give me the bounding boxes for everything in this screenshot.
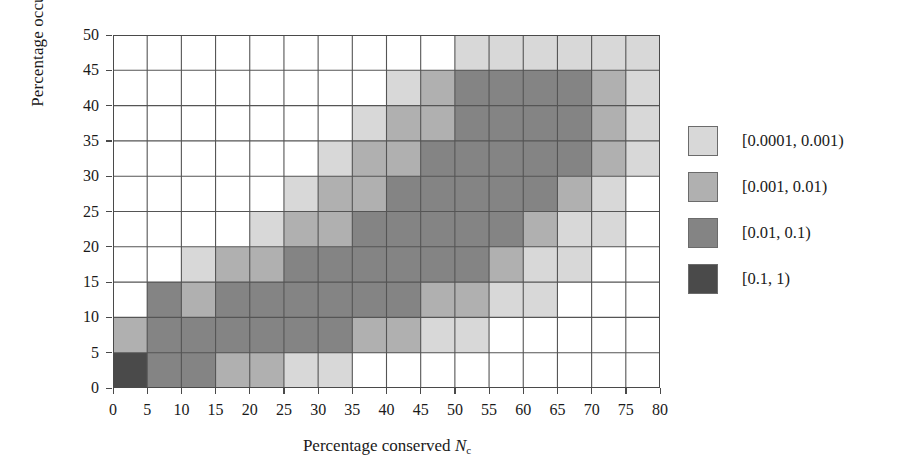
x-axis-tick-label: 80 [640, 402, 680, 418]
heatmap-cell [147, 247, 181, 282]
heatmap-cell [489, 176, 523, 211]
heatmap-cell [284, 70, 318, 105]
heatmap-cell [557, 317, 591, 352]
heatmap-cell [387, 317, 421, 352]
legend-swatch [688, 172, 718, 202]
legend-swatch [688, 264, 718, 294]
heatmap-cell [626, 176, 660, 211]
y-axis-tick-label: 45 [61, 62, 99, 78]
heatmap-cell [147, 141, 181, 176]
heatmap-grid [113, 35, 660, 388]
heatmap-cell [113, 176, 147, 211]
heatmap-cell [113, 70, 147, 105]
heatmap-cell [557, 35, 591, 70]
heatmap-cell [250, 247, 284, 282]
legend-swatch [688, 218, 718, 248]
heatmap-cell [113, 353, 147, 388]
heatmap-cell [181, 70, 215, 105]
heatmap-cell [455, 211, 489, 246]
heatmap-cell [557, 282, 591, 317]
heatmap-cell [626, 141, 660, 176]
heatmap-cell [626, 282, 660, 317]
heatmap-cell [489, 247, 523, 282]
heatmap-cell [489, 211, 523, 246]
heatmap-cell [352, 35, 386, 70]
heatmap-cell [284, 353, 318, 388]
heatmap-cell [592, 141, 626, 176]
y-axis-tick-mark [106, 317, 112, 318]
heatmap-cell [113, 106, 147, 141]
heatmap-cell [387, 353, 421, 388]
x-axis-tick-mark [113, 388, 114, 394]
heatmap-cell [216, 317, 250, 352]
heatmap-cell [147, 211, 181, 246]
heatmap-cell [421, 106, 455, 141]
heatmap-cell [318, 176, 352, 211]
heatmap-cell [592, 317, 626, 352]
heatmap-cell [421, 317, 455, 352]
heatmap-cell [216, 70, 250, 105]
heatmap-cell [113, 247, 147, 282]
heatmap-cell [284, 35, 318, 70]
heatmap-cell [318, 247, 352, 282]
x-axis-tick-mark [625, 388, 626, 394]
heatmap-cell [216, 35, 250, 70]
heatmap-cell [318, 70, 352, 105]
heatmap-cell [523, 247, 557, 282]
heatmap-cell [113, 211, 147, 246]
heatmap-cell [523, 106, 557, 141]
heatmap-cell [113, 35, 147, 70]
heatmap-cell [284, 141, 318, 176]
heatmap-cell [181, 353, 215, 388]
legend-item: [0.01, 0.1) [688, 210, 913, 256]
heatmap-cell [626, 211, 660, 246]
heatmap-cell [352, 317, 386, 352]
heatmap-cell [592, 106, 626, 141]
heatmap-cell [284, 247, 318, 282]
heatmap-cell [113, 141, 147, 176]
heatmap-cell [626, 247, 660, 282]
heatmap-cell [284, 176, 318, 211]
x-axis-tick-mark [181, 388, 182, 394]
heatmap-figure: Percentage occupied No Percentage conser… [0, 0, 919, 474]
y-axis-tick-label: 10 [61, 309, 99, 325]
legend-swatch [688, 126, 718, 156]
heatmap-cell [181, 141, 215, 176]
heatmap-cell [216, 106, 250, 141]
x-axis-tick-mark [249, 388, 250, 394]
legend-label: [0.01, 0.1) [742, 223, 811, 243]
heatmap-cell [250, 176, 284, 211]
heatmap-cell [181, 176, 215, 211]
heatmap-cell [352, 106, 386, 141]
heatmap-cell [523, 353, 557, 388]
y-axis-tick-label: 35 [61, 133, 99, 149]
y-axis-tick-label: 15 [61, 274, 99, 290]
x-axis-tick-mark [318, 388, 319, 394]
heatmap-cell [421, 176, 455, 211]
y-axis-tick-label: 40 [61, 98, 99, 114]
heatmap-cell [592, 247, 626, 282]
heatmap-cell [181, 282, 215, 317]
heatmap-cell [421, 353, 455, 388]
heatmap-cell [523, 282, 557, 317]
heatmap-cell [216, 353, 250, 388]
x-axis-tick-mark [215, 388, 216, 394]
heatmap-cell [523, 317, 557, 352]
heatmap-cell [181, 106, 215, 141]
legend: [0.0001, 0.001)[0.001, 0.01)[0.01, 0.1)[… [688, 118, 913, 302]
heatmap-cell [147, 176, 181, 211]
heatmap-cell [523, 70, 557, 105]
heatmap-cell [455, 282, 489, 317]
heatmap-cell [489, 70, 523, 105]
heatmap-cell [557, 247, 591, 282]
plot-area [113, 35, 660, 388]
heatmap-cell [455, 35, 489, 70]
heatmap-cell [216, 282, 250, 317]
heatmap-cell [421, 141, 455, 176]
legend-label: [0.0001, 0.001) [742, 131, 844, 151]
heatmap-cell [557, 106, 591, 141]
heatmap-cell [523, 35, 557, 70]
heatmap-cell [592, 35, 626, 70]
heatmap-cell [318, 35, 352, 70]
heatmap-cell [421, 211, 455, 246]
